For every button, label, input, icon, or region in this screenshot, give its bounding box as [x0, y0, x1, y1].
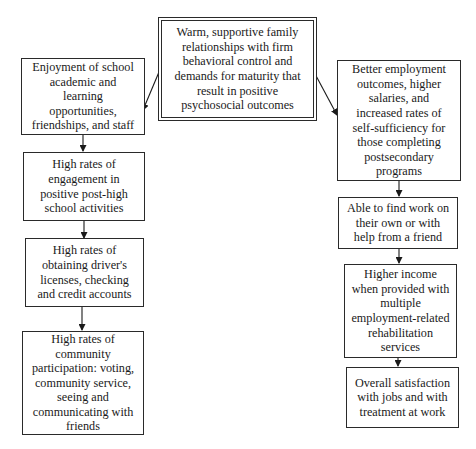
right-node-1-text: Better employment outcomes, higher salar… — [352, 62, 446, 179]
node-line: High rates of — [40, 157, 128, 172]
node-line: and credit accounts — [37, 287, 131, 302]
node-line: opportunities, — [32, 104, 134, 119]
right-node-4-text: Overall satisfaction with jobs and with … — [355, 376, 450, 420]
node-line: those completing — [352, 135, 446, 150]
node-line: treatment at work — [355, 405, 450, 420]
node-line: community service, — [32, 376, 134, 391]
right-node-job-satisfaction: Overall satisfaction with jobs and with … — [346, 367, 459, 428]
node-line: Higher income — [351, 267, 449, 282]
node-line: friends — [32, 419, 134, 434]
right-node-2-text: Able to find work on their own or with h… — [347, 201, 449, 245]
node-line: licenses, checking — [37, 273, 131, 288]
left-node-school-enjoyment: Enjoyment of school academic and learnin… — [21, 58, 145, 135]
node-line: rehabilitation — [351, 326, 449, 341]
node-line: engagement in — [40, 172, 128, 187]
node-line: salaries, and — [352, 91, 446, 106]
left-node-1-text: Enjoyment of school academic and learnin… — [32, 60, 134, 133]
node-line: their own or with — [347, 216, 449, 231]
left-node-licenses-accounts: High rates of obtaining driver's license… — [25, 238, 144, 307]
node-line: outcomes, higher — [352, 77, 446, 92]
node-line: programs — [352, 164, 446, 179]
node-line: friendships, and staff — [32, 118, 134, 133]
node-line: Better employment — [352, 62, 446, 77]
center-line: relationships with firm — [174, 40, 300, 55]
node-line: services — [351, 340, 449, 355]
node-line: participation: voting, — [32, 361, 134, 376]
node-line: High rates of — [37, 243, 131, 258]
node-line: academic and — [32, 75, 134, 90]
left-node-community-participation: High rates of community participation: v… — [22, 331, 144, 435]
left-node-engagement: High rates of engagement in positive pos… — [23, 152, 145, 221]
center-node-family-relationships: Warm, supportive family relationships wi… — [158, 17, 317, 121]
arrow-center-to-right — [314, 72, 337, 115]
center-line: Warm, supportive family — [174, 25, 300, 40]
node-line: postsecondary — [352, 150, 446, 165]
node-line: help from a friend — [347, 230, 449, 245]
center-node-text: Warm, supportive family relationships wi… — [174, 25, 300, 113]
node-line: seeing and — [32, 390, 134, 405]
center-line: behavioral control and — [174, 54, 300, 69]
right-node-find-work: Able to find work on their own or with h… — [338, 197, 458, 249]
node-line: when provided with — [351, 282, 449, 297]
node-line: learning — [32, 89, 134, 104]
left-node-2-text: High rates of engagement in positive pos… — [40, 157, 128, 215]
center-line: psychosocial outcomes — [174, 98, 300, 113]
right-node-higher-income: Higher income when provided with multipl… — [344, 264, 457, 358]
node-line: obtaining driver's — [37, 258, 131, 273]
node-line: with jobs and with — [355, 390, 450, 405]
node-line: Enjoyment of school — [32, 60, 134, 75]
left-node-4-text: High rates of community participation: v… — [32, 332, 134, 434]
center-line: result in positive — [174, 84, 300, 99]
node-line: communicating with — [32, 405, 134, 420]
node-line: Overall satisfaction — [355, 376, 450, 391]
right-node-employment-outcomes: Better employment outcomes, higher salar… — [337, 60, 461, 181]
node-line: multiple — [351, 296, 449, 311]
arrow-center-to-left — [143, 72, 159, 110]
right-node-3-text: Higher income when provided with multipl… — [351, 267, 449, 355]
center-line: demands for maturity that — [174, 69, 300, 84]
node-line: Able to find work on — [347, 201, 449, 216]
node-line: increased rates of — [352, 106, 446, 121]
left-node-3-text: High rates of obtaining driver's license… — [37, 243, 131, 301]
node-line: positive post-high — [40, 187, 128, 202]
node-line: community — [32, 347, 134, 362]
node-line: High rates of — [32, 332, 134, 347]
node-line: school activities — [40, 201, 128, 216]
node-line: employment-related — [351, 311, 449, 326]
node-line: self-sufficiency for — [352, 121, 446, 136]
